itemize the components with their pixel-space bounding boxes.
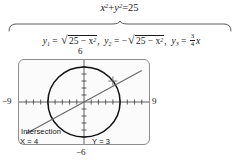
circle-equation: x2+y2=25 (0, 2, 239, 13)
branch-equations: y1 = √25 − x2, y2 = −√25 − x2, y3 = 34x (6, 33, 237, 48)
y1-trailing: , (97, 36, 99, 46)
y1-radicand: 25 − x2 (68, 35, 97, 46)
y3-fraction-numerator: 3 (190, 33, 195, 40)
y1-equals: = (52, 36, 57, 46)
brace-icon (8, 21, 232, 32)
radical-icon: √ (128, 34, 135, 46)
figure-root: x2+y2=25 y1 = √25 − x2, y2 = −√25 − x2, … (0, 0, 239, 165)
y1-radical: √25 − x2 (61, 35, 97, 46)
y2-radicand: 25 − x2 (135, 35, 164, 46)
y1-subscript: 1 (47, 40, 50, 46)
branch-equation-y1: y1 = √25 − x2, (43, 36, 100, 46)
y3-fraction: 34 (190, 33, 195, 48)
y2-radicand-exponent: 2 (160, 36, 163, 42)
y2-radical: √25 − x2 (128, 35, 164, 46)
intersection-readout-y: Y = 3 (92, 137, 110, 146)
line-equation-y3: y3 = 34x (171, 36, 200, 46)
y1-radicand-text: 25 − x (69, 36, 93, 46)
y2-equals: = (114, 36, 119, 46)
axis-label-right: 9 (152, 96, 157, 106)
y2-subscript: 2 (109, 40, 112, 46)
underbrace-grouping (8, 21, 232, 32)
y1-radicand-exponent: 2 (93, 36, 96, 42)
axis-label-bottom: −6 (76, 147, 86, 157)
y2-radicand-text: 25 − x (136, 36, 160, 46)
intersection-readout-x: X = 4 (20, 137, 38, 146)
y3-equals: = (181, 36, 186, 46)
axis-label-top: 6 (78, 46, 83, 56)
radical-icon: √ (61, 34, 68, 46)
y3-fraction-denominator: 4 (190, 40, 195, 48)
y3-variable: x (196, 36, 200, 46)
circle-eq-rhs: 25 (128, 2, 139, 13)
y2-trailing: , (164, 36, 166, 46)
y3-subscript: 3 (176, 40, 179, 46)
y2-sign: − (122, 36, 127, 46)
axis-label-left: −9 (2, 96, 12, 106)
branch-equation-y2: y2 = −√25 − x2, (104, 36, 166, 46)
intersection-readout-title: Intersection (21, 127, 61, 136)
